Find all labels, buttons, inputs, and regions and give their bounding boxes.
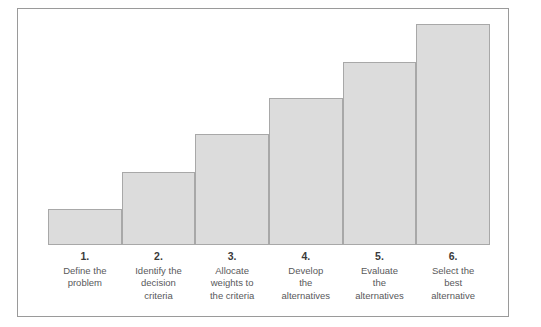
step-caption-1: 1. Define the problem — [48, 250, 122, 312]
bar-step-2 — [122, 172, 196, 245]
step-label-2: Identify the decision criteria — [122, 265, 196, 303]
bar-step-6 — [416, 24, 490, 245]
bar-step-1 — [48, 209, 122, 245]
bar-step-5 — [343, 62, 417, 245]
step-caption-4: 4. Develop the alternatives — [269, 250, 343, 312]
step-caption-row: 1. Define the problem 2. Identify the de… — [48, 250, 490, 312]
step-caption-6: 6. Select the best alternative — [416, 250, 490, 312]
step-number-4: 4. — [269, 250, 343, 263]
step-number-2: 2. — [122, 250, 196, 263]
step-number-3: 3. — [195, 250, 269, 263]
decision-process-figure: 1. Define the problem 2. Identify the de… — [0, 0, 541, 327]
step-number-6: 6. — [416, 250, 490, 263]
step-caption-2: 2. Identify the decision criteria — [122, 250, 196, 312]
bar-step-4 — [269, 98, 343, 245]
chart-baseline-axis — [48, 244, 490, 245]
step-label-3: Allocate weights to the criteria — [195, 265, 269, 303]
step-caption-5: 5. Evaluate the alternatives — [343, 250, 417, 312]
step-label-6: Select the best alternative — [416, 265, 490, 303]
step-label-1: Define the problem — [48, 265, 122, 290]
step-number-5: 5. — [343, 250, 417, 263]
step-label-4: Develop the alternatives — [269, 265, 343, 303]
step-label-5: Evaluate the alternatives — [343, 265, 417, 303]
bar-chart-plot-area — [48, 20, 490, 245]
step-caption-3: 3. Allocate weights to the criteria — [195, 250, 269, 312]
step-number-1: 1. — [48, 250, 122, 263]
bar-step-3 — [195, 134, 269, 245]
